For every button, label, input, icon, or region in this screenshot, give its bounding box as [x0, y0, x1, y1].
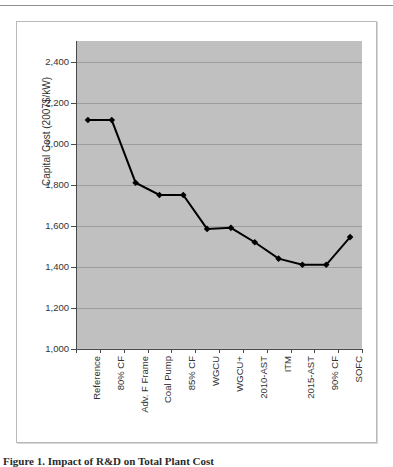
data-point-marker: [85, 117, 92, 124]
series-line: [88, 120, 350, 265]
data-point-marker: [299, 262, 306, 269]
figure-frame: 2,4002,2002,0001,8001,6001,4001,2001,000…: [16, 21, 377, 443]
page-top-rule: [0, 5, 393, 6]
data-point-marker: [108, 117, 115, 124]
data-series-layer: [17, 22, 378, 444]
series-markers: [85, 117, 354, 268]
capital-cost-line-chart: 2,4002,2002,0001,8001,6001,4001,2001,000…: [17, 22, 378, 444]
figure-caption: Figure 1. Impact of R&D on Total Plant C…: [3, 455, 391, 467]
